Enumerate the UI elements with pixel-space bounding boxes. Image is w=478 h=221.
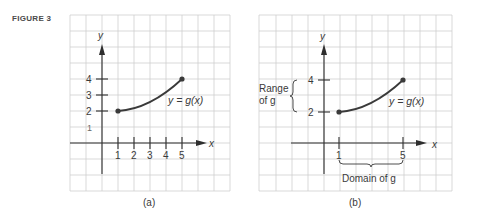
x-tick-label: 1 [115,150,121,161]
domain-brace [339,160,403,167]
y-tick-label: 3 [86,90,92,101]
y-tick-label: 2 [308,107,314,118]
x-axis-arrow-icon [196,140,207,146]
x-axis-label-b: x [431,139,438,150]
y-axis-label-a: y [97,30,104,41]
caption-b: (b) [349,197,361,208]
endpoint-dot [400,77,405,82]
endpoint-dot [336,109,341,114]
caption-a: (a) [143,197,155,208]
y-tick-label: 2 [86,106,92,117]
y-axis-arrow-icon [99,44,105,55]
x-tick-label: 3 [147,150,153,161]
y-axis-arrow-icon [321,44,327,55]
x-tick-label: 5 [179,150,185,161]
endpoint-dot [115,108,120,113]
x-tick-label: 5 [400,150,406,161]
range-brace [290,80,297,112]
x-axis-arrow-icon [416,140,427,146]
range-label-line2: of g [259,95,276,106]
domain-label: Domain of g [342,173,396,184]
panel-b: x y 1 5 2 4 Range of g y = g(x) Domain o… [259,15,452,208]
curve-label-b: y = g(x) [388,95,424,107]
y-tick-label: 4 [308,75,314,86]
x-tick-label: 1 [336,150,342,161]
curve-label-a: y = g(x) [167,94,203,106]
x-tick-label: 4 [163,150,169,161]
y-tick-label: 1 [87,123,92,133]
range-label-line1: Range [259,83,289,94]
y-tick-label: 4 [86,74,92,85]
endpoint-dot [179,76,184,81]
x-axis-label-a: x [208,138,215,149]
x-tick-label: 2 [131,150,137,161]
y-axis-label-b: y [319,31,326,42]
panel-a: x y 1 2 3 4 5 1 2 3 4 y = g(x) (a) [70,15,230,208]
